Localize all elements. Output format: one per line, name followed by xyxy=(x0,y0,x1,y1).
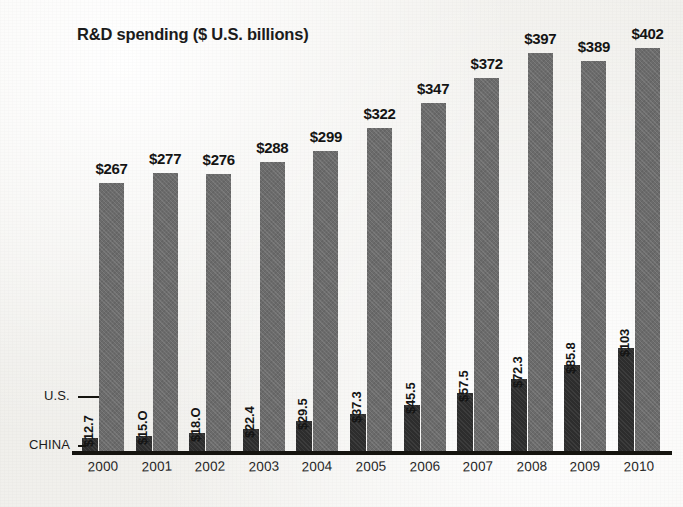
value-label-us-2001: $277 xyxy=(149,150,181,167)
bar-us-2005 xyxy=(367,128,392,451)
value-label-china-2001: $15.O xyxy=(135,411,150,445)
value-label-china-2000: $12.7 xyxy=(81,416,96,448)
value-label-us-2008: $397 xyxy=(524,30,556,47)
value-label-us-2009: $389 xyxy=(578,38,610,55)
plot-area: $267$12.7$277$15.O$276$18.O$288$22.4$299… xyxy=(0,0,683,507)
bar-us-2002 xyxy=(206,174,231,451)
x-axis-tick-2010: 2010 xyxy=(623,458,654,474)
value-label-china-2008: $72.3 xyxy=(510,356,525,388)
x-axis-tick-2001: 2001 xyxy=(141,458,172,474)
x-axis-tick-2009: 2009 xyxy=(570,458,601,474)
value-label-us-2004: $299 xyxy=(310,128,342,145)
x-axis-tick-2005: 2005 xyxy=(355,458,386,474)
value-label-us-2003: $288 xyxy=(256,139,288,156)
value-label-china-2004: $29.5 xyxy=(295,399,310,431)
value-label-china-2006: $45.5 xyxy=(403,383,418,415)
value-label-us-2007: $372 xyxy=(471,55,503,72)
value-label-us-2010: $402 xyxy=(631,25,663,42)
bar-us-2006 xyxy=(421,103,446,451)
x-axis-tick-2000: 2000 xyxy=(87,458,118,474)
value-label-us-2005: $322 xyxy=(363,105,395,122)
value-label-china-2009: $85.8 xyxy=(563,342,578,374)
value-label-china-2003: $22.4 xyxy=(242,406,257,438)
value-label-china-2002: $18.O xyxy=(188,408,203,442)
value-label-china-2007: $57.5 xyxy=(456,371,471,403)
value-label-us-2006: $347 xyxy=(417,80,449,97)
chart-page: R&D spending ($ U.S. billions) $267$12.7… xyxy=(0,0,683,507)
x-axis-tick-2004: 2004 xyxy=(302,458,333,474)
legend-label-us: U.S. xyxy=(44,388,70,403)
legend-leader-line-china xyxy=(78,445,86,447)
bar-us-2010 xyxy=(635,48,660,451)
bar-us-2001 xyxy=(153,173,178,451)
bar-us-2003 xyxy=(260,162,285,451)
x-axis-tick-2002: 2002 xyxy=(194,458,225,474)
value-label-china-2010: $103 xyxy=(617,329,632,357)
bar-us-2009 xyxy=(581,61,606,451)
bar-us-2000 xyxy=(99,183,124,451)
bar-china-2008 xyxy=(511,379,527,451)
bar-us-2004 xyxy=(313,151,338,451)
legend-label-china: CHINA xyxy=(29,437,70,452)
value-label-china-2005: $37.3 xyxy=(349,391,364,423)
x-axis-tick-2007: 2007 xyxy=(462,458,493,474)
bar-china-2010 xyxy=(618,348,634,451)
value-label-us-2000: $267 xyxy=(95,160,127,177)
legend-leader-line-us xyxy=(78,396,99,398)
x-axis-tick-2003: 2003 xyxy=(248,458,279,474)
x-axis-tick-2006: 2006 xyxy=(409,458,440,474)
bar-us-2008 xyxy=(528,53,553,451)
value-label-us-2002: $276 xyxy=(203,151,235,168)
bar-us-2007 xyxy=(474,78,499,451)
x-axis-tick-2008: 2008 xyxy=(516,458,547,474)
bar-china-2009 xyxy=(564,365,580,451)
x-axis-baseline xyxy=(72,451,672,455)
